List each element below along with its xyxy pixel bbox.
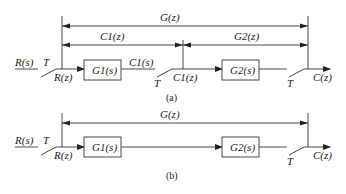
arrow-head-right-icon <box>300 43 308 48</box>
block-g1-label: G1(s) <box>92 141 117 154</box>
intermediate-label: C1(z) <box>173 71 198 84</box>
span-total-label: G(z) <box>160 11 180 24</box>
sampler-3-label: T <box>287 77 294 89</box>
sampled-system-diagram: G(z) C1(z) G2(z) R(s) T R(z) G1(s) C1(s)… <box>0 0 346 194</box>
arrow-head-left-icon <box>62 121 70 126</box>
caption-a: (a) <box>166 92 177 104</box>
arrow-head-left-icon <box>62 43 70 48</box>
block-g2-label: G2(s) <box>230 64 255 77</box>
output-label: C(z) <box>313 71 332 84</box>
arrow-head-left-icon <box>183 43 191 48</box>
sampler-1-label: T <box>43 134 50 146</box>
block-g2-label: G2(s) <box>230 141 255 154</box>
sampler-switch-2 <box>157 69 172 77</box>
caption-b: (b) <box>166 170 178 182</box>
sampler-switch-2 <box>289 147 304 155</box>
arrow-head-left-icon <box>62 24 70 29</box>
sampler-2-label: T <box>287 155 294 167</box>
diagram-a: G(z) C1(z) G2(z) R(s) T R(z) G1(s) C1(s)… <box>14 11 332 104</box>
sampler-1-label: T <box>43 56 50 68</box>
input-label: R(s) <box>14 134 34 147</box>
sampler-switch-3 <box>289 69 304 77</box>
block1-output-label: C1(s) <box>129 56 154 69</box>
span-first-label: C1(z) <box>100 30 125 43</box>
span-second-label: G2(z) <box>234 30 259 43</box>
sampler-2-label: T <box>154 77 161 89</box>
output-label: C(z) <box>313 149 332 162</box>
sampled-input-label: R(z) <box>53 149 73 162</box>
span-total-label: G(z) <box>160 108 180 121</box>
sampled-input-label: R(z) <box>53 71 73 84</box>
diagram-b: G(z) R(s) T R(z) G1(s) G2(s) T C(z) (b) <box>14 108 332 182</box>
arrow-head-right-icon <box>175 43 183 48</box>
block-g1-label: G1(s) <box>92 64 117 77</box>
input-label: R(s) <box>14 56 34 69</box>
arrow-head-right-icon <box>300 24 308 29</box>
arrow-head-right-icon <box>300 121 308 126</box>
